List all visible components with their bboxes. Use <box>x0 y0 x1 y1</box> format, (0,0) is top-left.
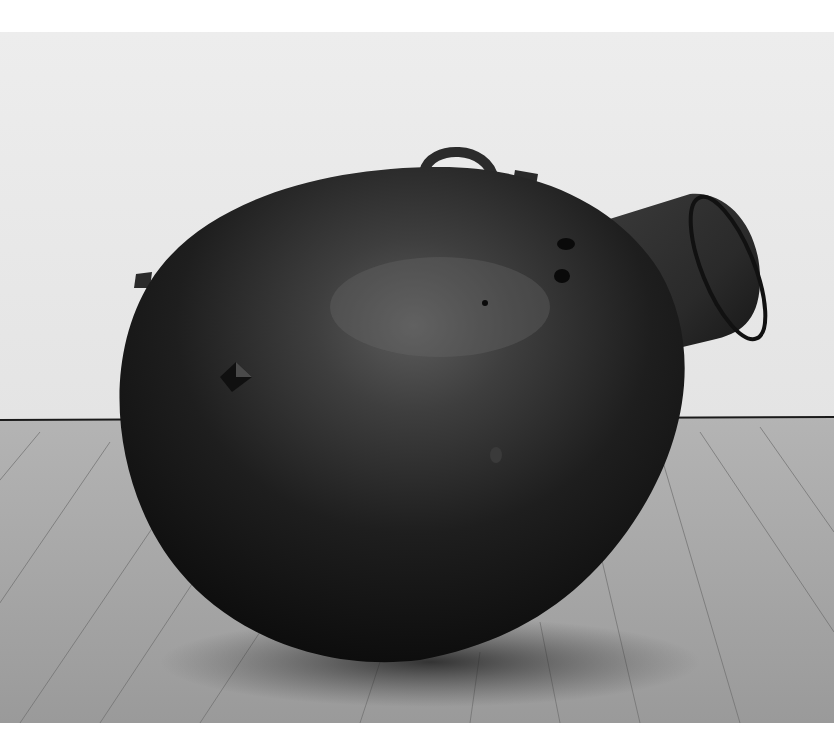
sculpture-highlight <box>330 257 550 357</box>
hole-small <box>482 300 488 306</box>
hole-1 <box>557 238 575 250</box>
hole-2 <box>554 269 570 283</box>
lower-nub <box>490 447 502 463</box>
gallery-photo <box>0 32 834 723</box>
